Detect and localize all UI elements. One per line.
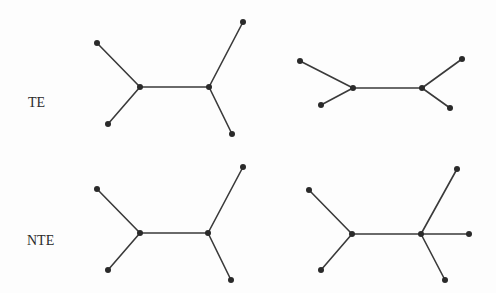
tree-te-left: [94, 19, 246, 137]
tree-edge: [108, 87, 140, 124]
tree-node: [297, 58, 303, 64]
tree-node: [419, 85, 425, 91]
tree-node: [105, 121, 111, 127]
tree-nte-right: [306, 166, 472, 283]
tree-edge: [97, 43, 140, 87]
tree-edge: [97, 189, 140, 233]
tree-node: [206, 84, 212, 90]
tree-edge: [321, 234, 352, 270]
tree-node: [205, 230, 211, 236]
tree-node: [94, 40, 100, 46]
tree-node: [459, 56, 465, 62]
tree-edge: [208, 167, 243, 233]
tree-edge: [422, 59, 462, 88]
tree-edge: [108, 233, 140, 270]
tree-node: [306, 187, 312, 193]
tree-node: [240, 19, 246, 25]
tree-edge: [422, 88, 450, 108]
tree-edge: [209, 22, 243, 87]
tree-node: [137, 230, 143, 236]
tree-edge: [208, 233, 231, 280]
tree-node: [442, 277, 448, 283]
tree-edge: [300, 61, 353, 88]
tree-edge: [421, 234, 445, 280]
tree-node: [454, 166, 460, 172]
tree-node: [349, 231, 355, 237]
tree-te-right: [297, 56, 465, 111]
row-label-te: TE: [28, 96, 45, 110]
tree-node: [418, 231, 424, 237]
tree-node: [447, 105, 453, 111]
tree-node: [229, 131, 235, 137]
tree-edge: [209, 87, 232, 134]
tree-diagram-figure: TE NTE: [0, 0, 496, 293]
tree-diagrams: [0, 0, 496, 293]
tree-node: [105, 267, 111, 273]
tree-node: [228, 277, 234, 283]
tree-node: [137, 84, 143, 90]
row-label-nte: NTE: [27, 234, 54, 248]
tree-edge: [321, 88, 353, 105]
tree-node: [318, 102, 324, 108]
tree-edge: [421, 169, 457, 234]
tree-node: [318, 267, 324, 273]
tree-node: [466, 231, 472, 237]
tree-edge: [309, 190, 352, 234]
tree-node: [240, 164, 246, 170]
tree-nte-left: [94, 164, 246, 283]
tree-node: [94, 186, 100, 192]
tree-node: [350, 85, 356, 91]
